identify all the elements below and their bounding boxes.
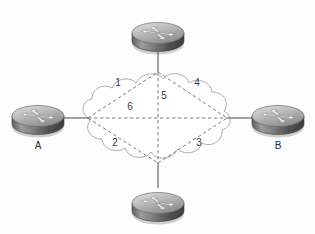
- cloud-outline: [83, 74, 230, 158]
- link-label-4: 4: [194, 77, 200, 88]
- router-bottom[interactable]: [132, 193, 184, 225]
- router-right-label: B: [275, 140, 282, 151]
- diagram-canvas: 1 2 3 4 5 6 A B: [0, 0, 315, 234]
- network-cloud: [83, 74, 230, 158]
- router-left-label: A: [35, 140, 42, 151]
- link-label-6: 6: [127, 101, 133, 112]
- network-diagram: 1 2 3 4 5 6 A B: [0, 0, 315, 234]
- link-label-1: 1: [115, 77, 121, 88]
- router-right[interactable]: B: [252, 106, 304, 152]
- link-label-3: 3: [196, 137, 202, 148]
- link-label-5: 5: [161, 90, 167, 101]
- link-label-2: 2: [112, 137, 118, 148]
- router-top[interactable]: [132, 23, 184, 55]
- router-left[interactable]: A: [12, 106, 64, 152]
